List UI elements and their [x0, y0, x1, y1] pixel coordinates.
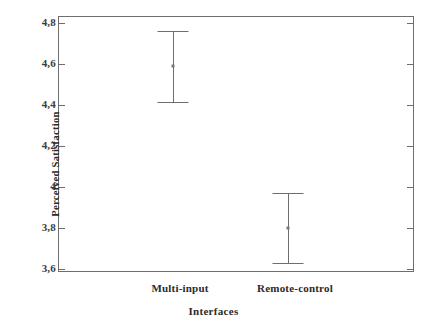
- y-tick-label-3-8: 3,8: [42, 222, 56, 233]
- x-axis-title: Interfaces: [0, 305, 427, 317]
- y-tick-label-4-6: 4,6: [42, 58, 56, 69]
- error-bar-mean-marker: [287, 227, 290, 230]
- y-tick-left-3-8: [59, 228, 65, 229]
- y-tick-label-4-8: 4,8: [42, 17, 56, 28]
- y-tick-left-4-6: [59, 64, 65, 65]
- y-tick-right-4-8: [407, 23, 413, 24]
- y-tick-label-4-4: 4,4: [42, 99, 56, 110]
- y-tick-right-4-2: [407, 146, 413, 147]
- y-tick-left-4-8: [59, 23, 65, 24]
- error-bar-lower-cap: [273, 263, 304, 264]
- error-bar-mean-marker: [172, 65, 175, 68]
- error-bar-lower-cap: [158, 102, 189, 103]
- y-tick-label-3-6: 3,6: [42, 263, 56, 274]
- error-bar-chart: 4,8 4,6 4,4 4,2 4 3,8 3,6 Perceived Sati…: [0, 0, 427, 328]
- plot-area: [58, 16, 414, 272]
- error-bar-remote-control: [268, 17, 308, 273]
- y-tick-left-3-6: [59, 269, 65, 270]
- y-axis-title: Perceived Satisfaction: [50, 111, 61, 216]
- y-tick-right-4-6: [407, 64, 413, 65]
- y-tick-left-4-4: [59, 105, 65, 106]
- error-bar-multi-input: [153, 17, 193, 273]
- y-tick-right-4-0: [407, 187, 413, 188]
- y-tick-right-4-4: [407, 105, 413, 106]
- x-category-label-multi-input: Multi-input: [151, 282, 208, 294]
- y-tick-right-3-6: [407, 269, 413, 270]
- x-category-label-remote-control: Remote-control: [257, 282, 333, 294]
- y-tick-right-3-8: [407, 228, 413, 229]
